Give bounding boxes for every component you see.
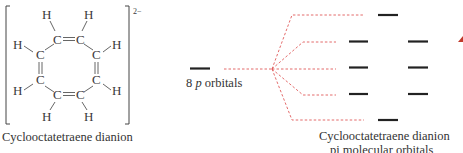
carbon-atom: C bbox=[36, 47, 45, 62]
p-symbol: p bbox=[195, 76, 201, 90]
carbon-atom: C bbox=[53, 32, 62, 47]
molecule-caption: Cyclooctatetraene dianion bbox=[2, 130, 133, 145]
hydrogen-atoms: H H H H H H H H bbox=[13, 7, 121, 124]
hydrogen-atom: H bbox=[13, 37, 22, 52]
mo-levels bbox=[349, 15, 428, 120]
hydrogen-atom: H bbox=[84, 7, 93, 22]
mo-caption-line1: Cyclooctatetraene dianion bbox=[319, 129, 450, 144]
hydrogen-atom: H bbox=[42, 7, 51, 22]
mo-caption-line2: pi molecular orbitals bbox=[330, 143, 433, 153]
correlation-lines bbox=[224, 15, 364, 120]
hydrogen-atom: H bbox=[13, 83, 22, 98]
carbon-atom: C bbox=[36, 72, 45, 87]
ring-bonds bbox=[39, 38, 98, 96]
energy-arrow-marker bbox=[458, 36, 463, 42]
cot-dianion-figure: 2− C C C C C C C C bbox=[0, 0, 463, 153]
bracket-left bbox=[6, 6, 10, 124]
carbon-atom: C bbox=[92, 47, 101, 62]
charge-label: 2− bbox=[133, 7, 142, 16]
carbon-atom: C bbox=[76, 32, 85, 47]
hydrogen-atom: H bbox=[42, 109, 51, 124]
orbital-count: 8 bbox=[186, 76, 192, 90]
bracket-right bbox=[125, 6, 129, 124]
carbon-atom: C bbox=[53, 87, 62, 102]
carbon-atom: C bbox=[76, 87, 85, 102]
hydrogen-atom: H bbox=[112, 37, 121, 52]
hydrogen-atom: H bbox=[112, 83, 121, 98]
p-orbitals-label: 8 p orbitals bbox=[186, 76, 242, 91]
hydrogen-atom: H bbox=[84, 109, 93, 124]
ring-carbons: C C C C C C C C bbox=[36, 32, 101, 102]
orbitals-word: orbitals bbox=[205, 76, 243, 90]
carbon-atom: C bbox=[92, 72, 101, 87]
